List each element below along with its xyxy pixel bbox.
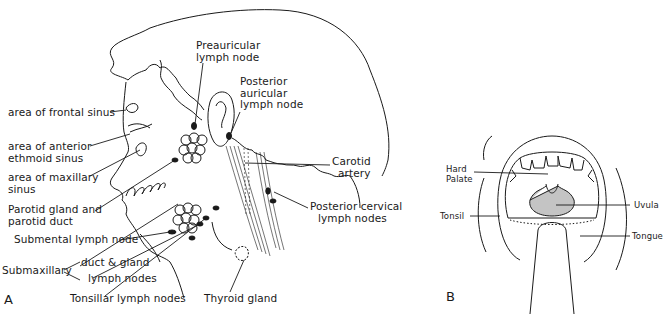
- panel-letter-a: A: [4, 292, 13, 307]
- thyroid-gland: [235, 246, 248, 260]
- label-area-of-frontal-sinus: area of frontal sinus: [8, 107, 115, 119]
- label-tonsil: Tonsil: [440, 211, 464, 221]
- label-line: ethmoid sinus: [8, 153, 91, 165]
- label-line: lymph nodes: [310, 213, 402, 225]
- label-line: Posterior: [240, 76, 303, 88]
- label-hard-palate: Hard Palate: [446, 164, 473, 184]
- panel-letter-b: B: [446, 289, 455, 304]
- label-line: Hard: [446, 164, 473, 174]
- label-tonsillar-lymph-nodes: Tonsillar lymph nodes: [70, 293, 186, 305]
- trachea: [212, 222, 232, 250]
- label-line: Palate: [446, 174, 473, 184]
- submaxillary-gland: [173, 203, 201, 233]
- label-posterior-cervical-lymph-nodes: Posterior cervical lymph nodes: [310, 201, 402, 224]
- teeth: [126, 183, 165, 196]
- label-line: Preauricular: [196, 40, 260, 52]
- label-submental-lymph-node: Submental lymph node: [14, 234, 138, 246]
- label-area-of-maxillary-sinus: area of maxillary sinus: [8, 172, 99, 195]
- label-parotid-gland-and-duct: Parotid gland and parotid duct: [8, 204, 102, 227]
- label-line: lymph node: [196, 52, 260, 64]
- label-duct-and-gland: duct & gland: [81, 257, 150, 269]
- label-preauricular-lymph-node: Preauricular lymph node: [196, 40, 260, 63]
- label-posterior-auricular-lymph-node: Posterior auricular lymph node: [240, 76, 303, 111]
- label-line: area of maxillary: [8, 172, 99, 184]
- parotid-gland: [179, 133, 207, 163]
- label-uvula: Uvula: [634, 200, 659, 210]
- label-line: Carotid: [332, 156, 371, 168]
- label-carotid-artery: Carotid artery: [332, 156, 371, 179]
- label-submaxillary: Submaxillary: [2, 265, 72, 277]
- label-line: Parotid gland and: [8, 204, 102, 216]
- label-submaxillary-lymph-nodes: lymph nodes: [88, 273, 157, 285]
- label-line: sinus: [8, 184, 99, 196]
- label-line: area of anterior: [8, 141, 91, 153]
- label-tongue: Tongue: [632, 231, 663, 241]
- label-thyroid-gland: Thyroid gland: [204, 293, 277, 305]
- label-line: parotid duct: [8, 216, 102, 228]
- label-line: Posterior cervical: [310, 201, 402, 213]
- label-line: artery: [332, 168, 371, 180]
- label-line: lymph node: [240, 99, 303, 111]
- mouth-illustration: [478, 136, 626, 314]
- label-area-of-anterior-ethmoid-sinus: area of anterior ethmoid sinus: [8, 141, 91, 164]
